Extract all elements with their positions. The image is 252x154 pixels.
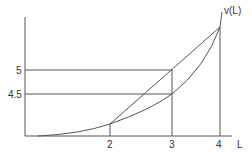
x-axis-label: L: [237, 139, 243, 150]
tick-y-5: 5: [16, 65, 22, 76]
curve-v-of-l: [38, 12, 222, 136]
tick-y-4-5: 4.5: [8, 89, 22, 100]
tick-x-2: 2: [107, 139, 113, 150]
chart: v(L) L 2 3 4 5 4.5: [0, 0, 252, 154]
tick-x-3: 3: [169, 139, 175, 150]
tick-x-4: 4: [216, 139, 222, 150]
y-axis-label: v(L): [224, 5, 241, 16]
chord-line: [110, 27, 220, 124]
